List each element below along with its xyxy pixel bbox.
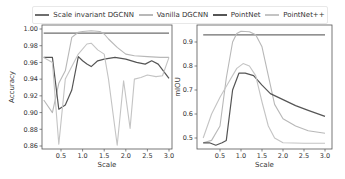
series-line xyxy=(44,31,169,113)
y-tick-label: 0.6 xyxy=(183,110,193,118)
y-tick-label: 0.90 xyxy=(24,109,38,117)
plot-frame xyxy=(42,25,172,149)
y-tick-label: 0.9 xyxy=(183,38,193,46)
x-tick-label: 1.0 xyxy=(77,152,87,160)
x-tick-label: 1.0 xyxy=(236,152,246,160)
miou-chart: 0.51.01.52.02.53.00.50.60.70.80.9ScalemI… xyxy=(174,25,332,169)
x-tick-label: 3.0 xyxy=(320,152,330,160)
series-line xyxy=(203,64,325,144)
x-tick-label: 1.5 xyxy=(99,152,109,160)
x-tick-label: 2.5 xyxy=(142,152,152,160)
y-tick-label: 0.86 xyxy=(24,142,38,150)
x-tick-label: 0.5 xyxy=(215,152,225,160)
y-tick-label: 0.96 xyxy=(24,59,38,67)
y-tick-label: 0.94 xyxy=(24,75,38,83)
y-tick-label: 0.98 xyxy=(24,42,38,50)
x-axis-label: Scale xyxy=(255,161,274,169)
y-tick-label: 0.92 xyxy=(24,92,38,100)
accuracy-chart: 0.51.01.52.02.53.00.860.880.900.920.940.… xyxy=(8,25,174,169)
x-tick-label: 2.5 xyxy=(299,152,309,160)
x-tick-label: 3.0 xyxy=(164,152,174,160)
x-axis-label: Scale xyxy=(98,161,117,169)
y-tick-label: 0.5 xyxy=(183,134,193,142)
y-tick-label: 0.8 xyxy=(183,62,193,70)
x-tick-label: 2.0 xyxy=(121,152,131,160)
y-axis-label: mIOU xyxy=(174,77,182,97)
x-tick-label: 2.0 xyxy=(278,152,288,160)
x-tick-label: 0.5 xyxy=(56,152,66,160)
y-tick-label: 1.00 xyxy=(24,25,38,33)
y-axis-label: Accuracy xyxy=(8,71,16,103)
y-tick-label: 0.88 xyxy=(24,126,38,134)
x-tick-label: 1.5 xyxy=(257,152,267,160)
y-tick-label: 0.7 xyxy=(183,86,193,94)
chart-canvas: 0.51.01.52.02.53.00.860.880.900.920.940.… xyxy=(0,0,345,179)
